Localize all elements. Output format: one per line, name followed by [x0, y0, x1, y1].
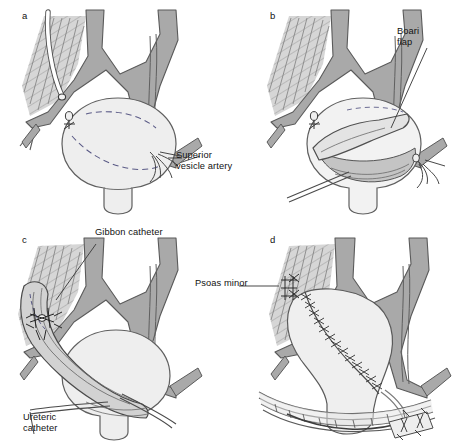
panel-c: c	[0, 222, 231, 444]
label-line-2: flap	[397, 37, 412, 47]
label-boari-flap: Boariflap	[397, 26, 419, 49]
label-ureteric-catheter: Uretericcatheter	[23, 412, 57, 435]
label-superior-vesicle-artery: Superiorvesicle artery	[176, 150, 232, 173]
label-line-1: Superior	[176, 150, 212, 160]
panel-d: d	[231, 222, 462, 444]
panel-c-illustration	[0, 222, 231, 444]
panel-letter-c: c	[22, 234, 27, 245]
panel-d-illustration	[231, 222, 462, 444]
label-psoas-minor: Psoas minor	[195, 278, 248, 289]
panel-letter-d: d	[270, 234, 275, 245]
panel-a-illustration	[0, 0, 231, 222]
surgical-figure: a	[0, 0, 462, 444]
psoas-muscle	[267, 16, 331, 116]
label-line-1: Ureteric	[23, 412, 56, 422]
label-line-2: catheter	[23, 423, 57, 433]
panel-letter-b: b	[270, 10, 275, 21]
panel-a: a	[0, 0, 231, 222]
label-line-1: Boari	[397, 26, 419, 36]
label-line-2: vesicle artery	[176, 161, 232, 171]
panel-b: b	[231, 0, 462, 222]
panel-letter-a: a	[22, 10, 27, 21]
panel-b-illustration	[231, 0, 462, 222]
bladder	[62, 98, 176, 214]
label-gibbon-catheter: Gibbon catheter	[95, 227, 163, 238]
